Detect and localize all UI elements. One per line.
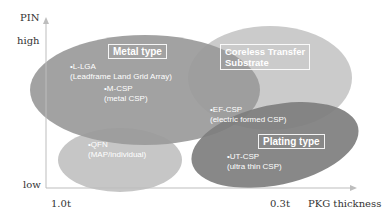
qfn-name: •QFN: [88, 140, 146, 150]
efcsp-desc: (electric formed CSP): [210, 115, 286, 125]
x-axis-start-label: 1.0t: [51, 198, 71, 209]
llga-name: •L-LGA: [70, 62, 172, 72]
qfn-label: •QFN (MAP/individual): [88, 140, 146, 159]
y-axis-high-label: high: [17, 35, 39, 46]
coreless-title: Coreless Transfer Substrate: [220, 44, 310, 70]
coreless-title-line1: Coreless Transfer: [225, 46, 305, 57]
efcsp-name: •EF-CSP: [210, 105, 286, 115]
x-axis-title: PKG thickness: [308, 198, 381, 209]
plating-type-title: Plating type: [258, 134, 325, 149]
y-axis-title: PIN: [20, 12, 39, 23]
mcsp-desc: (metal CSP): [104, 94, 148, 104]
utcsp-label: •UT-CSP (ultra thin CSP): [227, 152, 282, 171]
mcsp-name: •M-CSP: [104, 84, 148, 94]
qfn-desc: (MAP/individual): [88, 150, 146, 160]
y-axis-arrow-icon: [43, 17, 49, 24]
coreless-title-line2: Substrate: [225, 57, 305, 68]
utcsp-name: •UT-CSP: [227, 152, 282, 162]
efcsp-label: •EF-CSP (electric formed CSP): [210, 105, 286, 124]
y-axis-low-label: low: [23, 179, 41, 190]
llga-label: •L-LGA (Leadframe Land Grid Array): [70, 62, 172, 81]
llga-desc: (Leadframe Land Grid Array): [70, 72, 172, 82]
x-axis-end-label: 0.3t: [270, 198, 290, 209]
diagram-canvas: [0, 0, 389, 220]
metal-type-title: Metal type: [108, 44, 167, 59]
utcsp-desc: (ultra thin CSP): [227, 162, 282, 172]
x-axis-arrow-icon: [350, 185, 357, 191]
mcsp-label: •M-CSP (metal CSP): [104, 84, 148, 103]
